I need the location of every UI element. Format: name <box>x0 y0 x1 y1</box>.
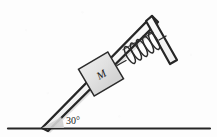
incline-wall-group <box>146 16 177 64</box>
angle-label-group: 30° <box>66 115 80 126</box>
spring-coil-4 <box>140 35 155 55</box>
physics-diagram-figure: M 30° <box>0 0 217 137</box>
spring-anchor-wall <box>146 16 177 64</box>
diagram-canvas: M 30° <box>0 0 217 137</box>
angle-label: 30° <box>66 115 80 126</box>
